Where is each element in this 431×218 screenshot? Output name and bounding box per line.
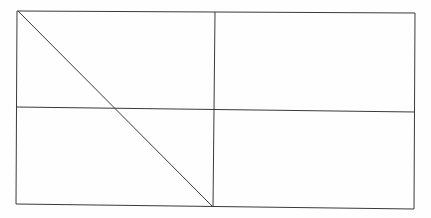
- diagram-svg: [0, 0, 431, 218]
- diagram-canvas: [0, 0, 431, 218]
- horizontal-midline: [16, 107, 415, 112]
